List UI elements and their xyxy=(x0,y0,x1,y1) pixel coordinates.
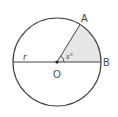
center-point xyxy=(55,60,58,63)
point-b-label: B xyxy=(103,57,110,68)
center-label: O xyxy=(53,69,61,80)
angle-label: x° xyxy=(65,52,74,61)
shaded-sector xyxy=(57,25,101,62)
radius-label: r xyxy=(23,51,27,62)
point-a-label: A xyxy=(81,13,88,24)
circle-diagram: A B O r x° xyxy=(0,0,118,117)
